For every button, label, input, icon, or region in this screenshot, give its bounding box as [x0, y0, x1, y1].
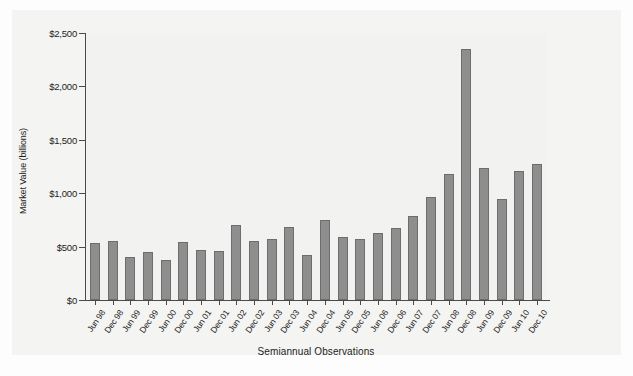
x-tick-mark: [254, 300, 255, 305]
bar: [461, 49, 471, 300]
x-tick-mark: [378, 300, 379, 305]
bar: [426, 197, 436, 300]
x-tick-mark: [183, 300, 184, 305]
bar: [514, 171, 524, 300]
x-tick-mark: [325, 300, 326, 305]
x-tick-mark: [236, 300, 237, 305]
x-tick-mark: [113, 300, 114, 305]
y-tick-label: $2,500: [49, 28, 77, 39]
x-tick-mark: [130, 300, 131, 305]
bar: [497, 199, 507, 300]
y-tick-label: $1,000: [49, 188, 77, 199]
bar: [249, 241, 259, 300]
bar-series: [86, 33, 546, 300]
y-tick-mark: [79, 193, 85, 194]
x-tick-mark: [272, 300, 273, 305]
chart-figure: $0$500$1,000$1,500$2,000$2,500 Market Va…: [0, 0, 633, 376]
bar: [267, 239, 277, 300]
x-tick-mark: [449, 300, 450, 305]
x-tick-mark: [289, 300, 290, 305]
x-tick-mark: [307, 300, 308, 305]
bar: [373, 233, 383, 300]
x-tick-mark: [537, 300, 538, 305]
x-tick-mark: [148, 300, 149, 305]
x-axis-ticks: Jun 98Dec 98Jun 99Dec 99Jun 00Dec 00Jun …: [86, 300, 546, 376]
bar: [161, 260, 171, 300]
bar: [108, 241, 118, 300]
bar: [408, 216, 418, 300]
y-tick-label: $0: [67, 295, 77, 306]
bar: [125, 257, 135, 300]
x-tick-mark: [360, 300, 361, 305]
bar: [90, 243, 100, 300]
x-tick-mark: [431, 300, 432, 305]
y-tick-label: $1,500: [49, 134, 77, 145]
x-tick-mark: [519, 300, 520, 305]
x-tick-mark: [396, 300, 397, 305]
x-axis-title: Semiannual Observations: [86, 346, 546, 357]
bar: [532, 164, 542, 300]
x-tick-mark: [502, 300, 503, 305]
y-tick-mark: [79, 86, 85, 87]
bar: [196, 250, 206, 300]
bar: [178, 242, 188, 300]
x-tick-mark: [413, 300, 414, 305]
bar: [214, 251, 224, 300]
y-tick-label: $500: [57, 241, 77, 252]
x-tick-mark: [343, 300, 344, 305]
y-tick-label: $2,000: [49, 81, 77, 92]
bar: [231, 225, 241, 300]
y-tick-mark: [79, 247, 85, 248]
bar: [391, 228, 401, 300]
y-axis-tick-labels: $0$500$1,000$1,500$2,000$2,500: [0, 0, 77, 376]
y-axis-title: Market Value (billions): [18, 106, 28, 236]
x-tick-mark: [95, 300, 96, 305]
x-tick-mark: [219, 300, 220, 305]
y-tick-mark: [79, 140, 85, 141]
y-tick-mark: [79, 300, 85, 301]
bar: [444, 174, 454, 300]
bar: [284, 227, 294, 300]
x-tick-mark: [201, 300, 202, 305]
bar: [355, 239, 365, 300]
bar: [302, 255, 312, 300]
bar: [479, 168, 489, 300]
y-tick-mark: [79, 33, 85, 34]
bar: [320, 220, 330, 300]
x-tick-mark: [466, 300, 467, 305]
x-tick-mark: [166, 300, 167, 305]
x-tick-mark: [484, 300, 485, 305]
bar: [143, 252, 153, 300]
bar: [338, 237, 348, 300]
